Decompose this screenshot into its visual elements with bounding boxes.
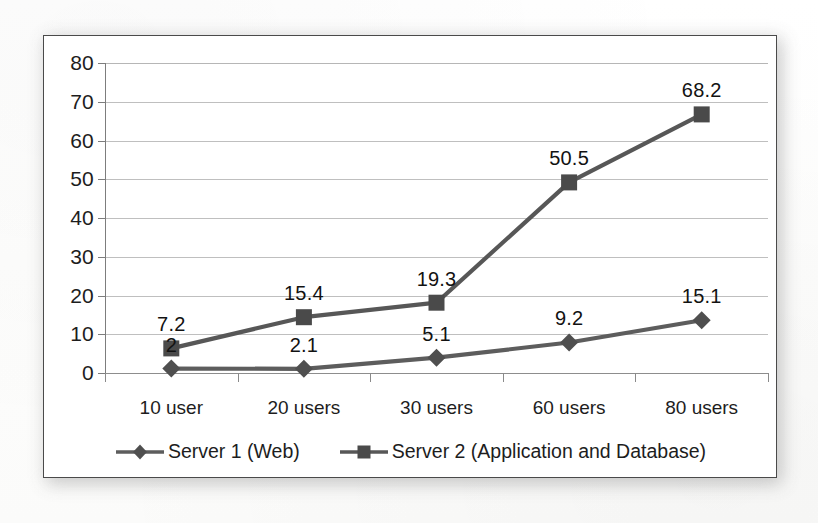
square-marker-icon — [561, 174, 577, 190]
x-axis-label-1: 20 users — [267, 397, 340, 419]
legend-label-server-2: Server 2 (Application and Database) — [392, 440, 706, 463]
gridline-0 — [105, 373, 768, 374]
data-label-s1-4: 15.1 — [682, 285, 722, 308]
x-axis-label-4: 80 users — [665, 397, 738, 419]
y-axis-label-0: 0 — [82, 361, 94, 385]
legend-item-server-1[interactable]: Server 1 (Web) — [114, 440, 300, 463]
square-marker-icon — [694, 106, 710, 122]
series-line-2 — [171, 114, 701, 348]
y-axis-label-80: 80 — [70, 51, 94, 75]
x-tick-1 — [238, 373, 239, 382]
y-axis-label-40: 40 — [70, 206, 94, 230]
x-tick-4 — [635, 373, 636, 382]
data-label-s2-3: 50.5 — [549, 147, 589, 170]
diamond-marker-icon — [428, 349, 446, 367]
data-label-s1-2: 5.1 — [422, 323, 450, 346]
x-tick-5 — [768, 373, 769, 382]
square-marker-icon — [429, 295, 445, 311]
data-label-s1-3: 9.2 — [555, 307, 583, 330]
data-label-s2-1: 15.4 — [284, 282, 324, 305]
diamond-marker-icon — [560, 333, 578, 351]
x-tick-0 — [105, 373, 106, 382]
y-axis-label-70: 70 — [70, 90, 94, 114]
diamond-marker-icon — [693, 311, 711, 329]
plot-area: 01020304050607080 10 user20 users30 user… — [105, 63, 768, 373]
x-axis-label-2: 30 users — [400, 397, 473, 419]
x-tick-3 — [503, 373, 504, 382]
legend-label-server-1: Server 1 (Web) — [168, 440, 300, 463]
data-label-s2-4: 68.2 — [682, 79, 722, 102]
square-marker-icon — [296, 309, 312, 325]
diamond-marker-icon — [114, 442, 166, 462]
y-axis-label-60: 60 — [70, 129, 94, 153]
screenshot-root: 01020304050607080 10 user20 users30 user… — [0, 0, 818, 523]
x-tick-2 — [370, 373, 371, 382]
data-label-s2-2: 19.3 — [417, 268, 457, 291]
legend-item-server-2[interactable]: Server 2 (Application and Database) — [338, 440, 706, 463]
data-label-s1-0: 2 — [166, 334, 177, 357]
square-marker-icon — [338, 442, 390, 462]
x-axis-label-0: 10 user — [140, 397, 203, 419]
y-axis-label-20: 20 — [70, 284, 94, 308]
x-axis-label-3: 60 users — [533, 397, 606, 419]
diamond-marker-icon — [162, 360, 180, 378]
y-axis-label-50: 50 — [70, 167, 94, 191]
data-label-s2-0: 7.2 — [157, 313, 185, 336]
chart-container: 01020304050607080 10 user20 users30 user… — [43, 35, 777, 478]
diamond-marker-icon — [295, 360, 313, 378]
chart-legend: Server 1 (Web) Server 2 (Application and… — [44, 440, 776, 463]
y-axis-label-10: 10 — [70, 322, 94, 346]
y-axis-label-30: 30 — [70, 245, 94, 269]
data-label-s1-1: 2.1 — [290, 334, 318, 357]
